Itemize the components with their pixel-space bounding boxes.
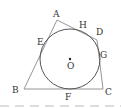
label-b: B [12,85,19,95]
label-f: F [65,92,71,102]
label-g: G [100,50,107,60]
label-a: A [52,9,60,19]
label-h: H [79,20,87,30]
label-d: D [96,27,103,37]
label-e: E [37,37,44,47]
center-point [69,58,71,60]
geometry-diagram: A B C D E H G F O [0,0,121,108]
label-c: C [105,87,112,97]
quadrilateral-abcd [24,20,103,89]
label-o: O [67,61,74,71]
